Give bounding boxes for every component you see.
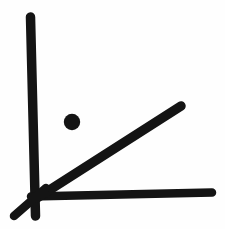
sketch-figure <box>0 0 225 229</box>
sketch-canvas <box>0 0 225 229</box>
marked-point-dot <box>64 114 80 130</box>
horizontal-axis-stroke <box>31 193 212 197</box>
vertical-axis-stroke <box>31 17 36 216</box>
